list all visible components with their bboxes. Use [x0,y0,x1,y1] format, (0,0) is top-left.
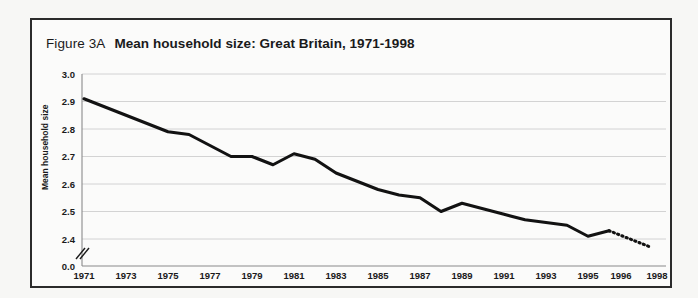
y-axis-title: Mean household size [40,104,50,190]
plot-area: 3.0 2.9 2.8 2.7 2.6 2.5 2.4 0.0 Mean hou… [32,20,674,290]
xtick-label: 1981 [283,270,305,281]
ytick-label: 2.9 [62,96,75,107]
xtick-label: 1993 [535,270,556,281]
figure-frame: Figure 3AMean household size: Great Brit… [30,18,672,288]
xtick-label: 1989 [451,270,472,281]
xtick-label: 1987 [409,270,430,281]
xtick-label: 1995 [577,270,599,281]
xtick-label: 1991 [493,270,515,281]
gridlines [82,74,666,239]
ytick-label: 3.0 [62,69,75,80]
xtick-label: 1998 [646,270,667,281]
xtick-label: 1973 [115,270,136,281]
ytick-label: 2.6 [62,179,75,190]
line-chart: 3.0 2.9 2.8 2.7 2.6 2.5 2.4 0.0 Mean hou… [32,20,674,290]
y-tick-labels: 3.0 2.9 2.8 2.7 2.6 2.5 2.4 0.0 [62,69,76,272]
series-line-solid [84,99,609,237]
xtick-label: 1985 [367,270,389,281]
xtick-label: 1983 [325,270,346,281]
figure-root: Figure 3AMean household size: Great Brit… [0,0,698,298]
xtick-label: 1979 [241,270,262,281]
xtick-label: 1996 [610,270,631,281]
xtick-label: 1975 [157,270,179,281]
x-tick-labels: 1971 1973 1975 1977 1979 1981 1983 1985 … [73,270,667,281]
ytick-label: 2.5 [62,206,76,217]
xtick-label: 1977 [199,270,220,281]
xtick-label: 1971 [73,270,95,281]
ytick-label: 2.7 [62,151,75,162]
ytick-label: 2.4 [62,234,76,245]
ytick-label: 2.8 [62,124,75,135]
